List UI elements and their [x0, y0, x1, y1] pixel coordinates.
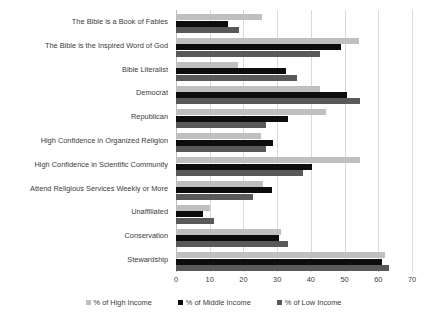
legend-label: % of Low Income	[285, 299, 342, 306]
legend-swatch-icon	[178, 300, 183, 305]
category-label: High Confidence in Scientific Community	[34, 161, 168, 168]
x-tick-label: 60	[374, 276, 382, 283]
bar-high	[176, 62, 238, 68]
bar-group	[176, 129, 412, 153]
bar-group	[176, 10, 412, 34]
bar-high	[176, 157, 360, 163]
bar-low	[176, 75, 297, 81]
bar-low	[176, 265, 389, 271]
bar-low	[176, 218, 214, 224]
bar-middle	[176, 140, 273, 146]
chart-legend: % of High Income% of Middle Income% of L…	[0, 299, 427, 306]
bar-low	[176, 51, 320, 57]
category-label: Stewardship	[127, 256, 168, 263]
gridline-70	[412, 10, 413, 272]
bar-group	[176, 153, 412, 177]
bar-high	[176, 133, 261, 139]
bar-middle	[176, 164, 312, 170]
bar-group	[176, 58, 412, 82]
bar-group	[176, 105, 412, 129]
bar-group	[176, 248, 412, 272]
x-tick-label: 70	[408, 276, 416, 283]
legend-label: % of Middle Income	[186, 299, 251, 306]
bar-middle	[176, 116, 288, 122]
bar-high	[176, 181, 263, 187]
x-tick-label: 0	[174, 276, 178, 283]
category-label: Republican	[131, 113, 168, 120]
bar-middle	[176, 187, 272, 193]
legend-item-high[interactable]: % of High Income	[86, 299, 152, 306]
legend-label: % of High Income	[94, 299, 152, 306]
bar-group	[176, 34, 412, 58]
category-label: The Bible is a Book of Fables	[72, 18, 168, 25]
bar-middle	[176, 259, 382, 265]
bar-high	[176, 109, 326, 115]
bar-high	[176, 38, 359, 44]
bar-group	[176, 224, 412, 248]
x-tick-label: 30	[273, 276, 281, 283]
legend-swatch-icon	[86, 300, 91, 305]
bar-chart: The Bible is a Book of FablesThe Bible i…	[0, 0, 427, 322]
category-label: Unaffiliated	[131, 208, 168, 215]
bar-low	[176, 146, 266, 152]
category-label: The Bible is the Inspired Word of God	[45, 42, 168, 49]
legend-swatch-icon	[277, 300, 282, 305]
category-label: Bible Literalist	[122, 66, 168, 73]
bar-middle	[176, 68, 286, 74]
bar-middle	[176, 92, 347, 98]
x-tick-label: 10	[206, 276, 214, 283]
bar-low	[176, 27, 239, 33]
bar-low	[176, 170, 303, 176]
bar-low	[176, 194, 253, 200]
category-axis: The Bible is a Book of FablesThe Bible i…	[0, 10, 172, 272]
bar-middle	[176, 21, 228, 27]
x-tick-label: 40	[307, 276, 315, 283]
legend-item-low[interactable]: % of Low Income	[277, 299, 342, 306]
bar-group	[176, 177, 412, 201]
bar-middle	[176, 44, 341, 50]
bar-high	[176, 14, 262, 20]
bar-high	[176, 86, 320, 92]
category-label: Conservation	[124, 232, 168, 239]
bar-high	[176, 229, 281, 235]
plot-area	[176, 10, 412, 272]
x-tick-label: 50	[340, 276, 348, 283]
category-label: Democrat	[136, 89, 168, 96]
bar-low	[176, 98, 360, 104]
category-label: Attend Religious Services Weekly or More	[30, 185, 168, 192]
bar-group	[176, 81, 412, 105]
bar-high	[176, 205, 210, 211]
value-axis: 010203040506070	[176, 276, 412, 290]
legend-item-middle[interactable]: % of Middle Income	[178, 299, 251, 306]
bar-middle	[176, 235, 279, 241]
x-tick-label: 20	[239, 276, 247, 283]
bar-low	[176, 122, 266, 128]
bar-low	[176, 241, 288, 247]
bar-middle	[176, 211, 203, 217]
category-label: High Confidence in Organized Religion	[41, 137, 168, 144]
bar-group	[176, 201, 412, 225]
bar-high	[176, 252, 385, 258]
